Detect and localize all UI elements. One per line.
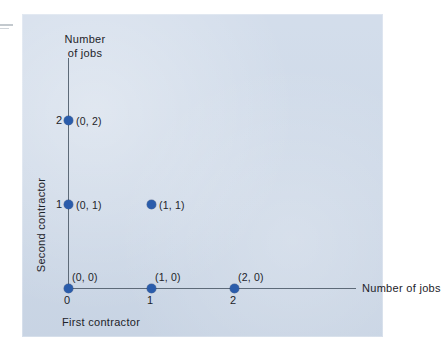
- data-point-1-1[interactable]: [147, 200, 156, 209]
- page-edge-artifact-secondary: [0, 28, 9, 29]
- data-point-label-2-0: (2, 0): [238, 271, 264, 283]
- y-axis-title-line2: of jobs: [68, 47, 103, 59]
- data-point-label-0-1: (0, 1): [76, 199, 102, 211]
- data-point-0-2[interactable]: [64, 116, 73, 125]
- data-point-1-0[interactable]: [147, 284, 156, 293]
- data-point-0-0[interactable]: [64, 284, 73, 293]
- x-axis-title: Number of jobs: [362, 282, 441, 294]
- y-axis-title: Number of jobs: [54, 32, 116, 60]
- x-group-label: First contractor: [62, 316, 140, 328]
- y-axis-title-line1: Number: [65, 33, 106, 45]
- data-point-2-0[interactable]: [230, 284, 239, 293]
- data-point-label-1-1: (1, 1): [159, 199, 185, 211]
- x-tick-label-0: 0: [64, 294, 70, 306]
- data-point-0-1[interactable]: [64, 200, 73, 209]
- data-point-label-0-0: (0, 0): [72, 271, 98, 283]
- x-axis-line: [68, 288, 356, 289]
- y-axis-line: [68, 58, 69, 289]
- data-point-label-0-2: (0, 2): [76, 115, 102, 127]
- y-tick-label-1: 1: [56, 198, 62, 210]
- y-group-label: Second contractor: [35, 170, 47, 280]
- y-tick-label-2: 2: [56, 114, 62, 126]
- data-point-label-1-0: (1, 0): [155, 271, 181, 283]
- scatter-plot-area: Number of jobs Number of jobs First cont…: [22, 14, 383, 337]
- page-edge-artifact: [0, 24, 13, 26]
- x-tick-label-1: 1: [147, 294, 153, 306]
- figure-panel: Number of jobs Number of jobs First cont…: [22, 14, 383, 337]
- x-tick-label-2: 2: [230, 294, 236, 306]
